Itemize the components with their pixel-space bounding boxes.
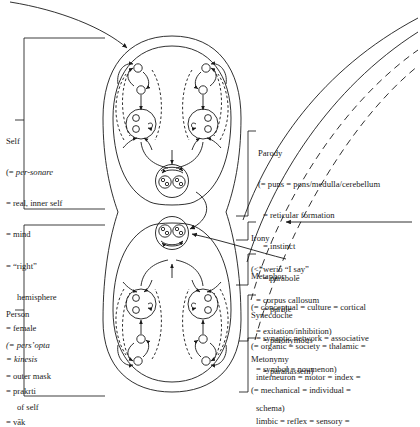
arrow-ur-a	[210, 68, 216, 86]
node-ll-mid	[137, 335, 145, 343]
center-upper-left	[159, 176, 171, 188]
node-ul-c2	[133, 126, 140, 133]
node-ul-c1	[133, 115, 140, 122]
person-line-2: of self	[6, 402, 57, 412]
arrow-ul-in2	[144, 138, 152, 150]
self-line-3: = “right”	[6, 261, 62, 271]
node-ul-top	[134, 64, 142, 72]
arrow-ll-loop	[148, 303, 153, 308]
node-lr-mid	[199, 335, 207, 343]
arrow-lr-loop	[192, 303, 197, 308]
node-ll-c2	[133, 307, 140, 314]
center-lower-left	[159, 225, 171, 237]
arrow-ul-loop	[148, 123, 153, 128]
node-ur-mid	[199, 86, 207, 94]
arrow-ll-a	[128, 343, 134, 361]
dot-cll-1	[161, 227, 164, 230]
dashed-ur-left	[183, 70, 192, 140]
arrow-ur-in1	[207, 138, 221, 148]
metaphor-heading: Metaphor	[251, 271, 369, 281]
dashed-lr-left	[183, 289, 192, 359]
right-bracket-metonymy	[239, 338, 248, 392]
lower-lobe-outline	[113, 223, 231, 382]
cluster-ul	[126, 109, 156, 139]
cluster-ll	[126, 289, 156, 319]
dot-cur-2	[179, 182, 182, 185]
upper-conv-right	[176, 142, 203, 168]
cluster-ur	[188, 109, 218, 139]
dot-clr-2	[179, 231, 182, 234]
arrow-center-interchange	[190, 192, 207, 229]
arrow-ul-in1	[123, 138, 137, 148]
person-line-1: = outer mask	[6, 371, 57, 381]
center-lower-right	[173, 225, 185, 237]
node-lr-c1	[205, 295, 212, 302]
node-ll-c1	[133, 295, 140, 302]
person-heading: Person	[6, 309, 57, 319]
cluster-lr	[188, 289, 218, 319]
self-line-2: = mind	[6, 229, 62, 239]
irony-heading: Irony	[251, 233, 332, 243]
lower-div-right	[176, 260, 203, 286]
dashed-ul-right	[152, 70, 161, 140]
synecdoche-heading: Synecdoche	[251, 310, 366, 320]
parody-heading: Parody	[258, 148, 380, 158]
self-line-1: = real, inner self	[6, 198, 62, 208]
dot-cll-2	[165, 231, 168, 234]
right-bracket-irony	[236, 222, 248, 240]
upper-conv-left	[141, 142, 168, 168]
dot-cul-1	[161, 178, 164, 181]
arrow-ur-loop	[192, 123, 197, 128]
dot-cul-2	[165, 182, 168, 185]
right-bracket-metaphor	[236, 254, 248, 285]
self-line-0: (= per-sonare	[6, 167, 62, 177]
node-ur-top	[202, 64, 210, 72]
person-group: Person (= pers’opta = outer mask of self…	[6, 288, 57, 427]
metonymy-heading: Metonymy	[251, 354, 351, 364]
dot-clr-1	[175, 227, 178, 230]
node-ur-c1	[205, 115, 212, 122]
arrow-lr-in2	[192, 280, 200, 292]
node-ll-bot	[134, 357, 142, 365]
node-lr-bot	[202, 357, 210, 365]
dot-cur-1	[175, 178, 178, 181]
arrow-lr-a	[210, 343, 216, 361]
node-ur-c2	[205, 126, 212, 133]
arrow-ur-in2	[192, 138, 200, 150]
arrow-ll-in2	[144, 280, 152, 292]
center-node-upper	[156, 165, 189, 198]
right-bracket-parody	[236, 131, 248, 216]
parody-line-0: (= puns = pons/medulla/cerebellum	[258, 179, 380, 189]
arrow-center-upper-back	[162, 170, 183, 173]
diagram-canvas: Self (= per-sonare = real, inner self = …	[0, 0, 420, 427]
center-upper-right	[173, 176, 185, 188]
metonymy-line-0: (= mechanical = individual =	[251, 385, 351, 395]
metonymy-group: Metonymy (= mechanical = individual = li…	[251, 333, 351, 427]
metonymy-line-1: limbic = reflex = sensory =	[251, 416, 351, 426]
arrow-ul-a	[128, 68, 134, 86]
lower-div-left	[141, 260, 168, 286]
person-line-0: (= pers’opta	[6, 340, 57, 350]
dashed-ll-right	[152, 289, 161, 359]
node-lr-c2	[205, 307, 212, 314]
incoming-arrow-top-left	[10, 2, 127, 48]
node-ul-mid	[137, 86, 145, 94]
self-heading: Self	[6, 136, 62, 146]
